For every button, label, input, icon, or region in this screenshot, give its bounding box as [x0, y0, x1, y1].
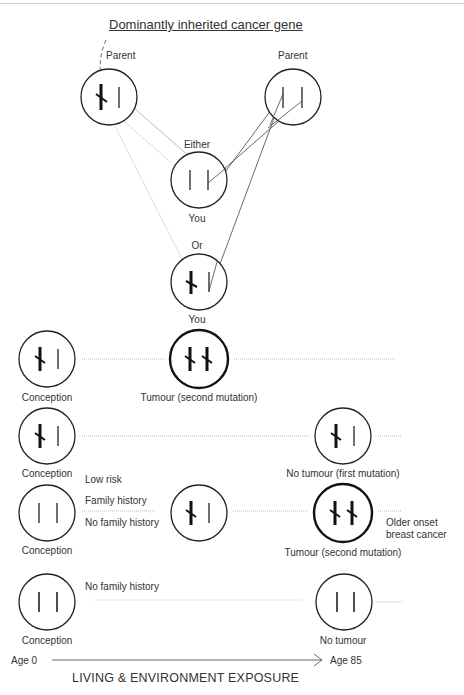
row4-no-tumour-label: No tumour [320, 635, 367, 647]
row2-conception-label: Conception [22, 468, 73, 480]
row1-conception-label: Conception [22, 392, 73, 404]
axis-caption: LIVING & ENVIRONMENT EXPOSURE [72, 671, 299, 685]
pedigree-diagram [0, 0, 464, 695]
row3-no-family-history-label: No family history [85, 517, 159, 529]
row3-tumour-label: Tumour (second mutation) [285, 547, 402, 559]
row3-family-history-label: Family history [85, 495, 147, 507]
age-axis-arrow [52, 654, 322, 666]
child-or-circle [171, 254, 227, 310]
you-label-or: You [189, 314, 206, 326]
or-label: Or [191, 240, 202, 252]
child-either-circle [171, 152, 227, 208]
row3-low-risk-label: Low risk [85, 474, 122, 486]
row3-outcome-line1: Older onset [386, 517, 438, 529]
row4-no-family-history-label: No family history [85, 581, 159, 593]
row3 [19, 484, 402, 542]
parent-right-label: Parent [278, 50, 307, 62]
row4-conception-label: Conception [22, 635, 73, 647]
you-label-either: You [189, 213, 206, 225]
row2 [19, 408, 402, 464]
row2-no-tumour-label: No tumour (first mutation) [286, 468, 399, 480]
row3-conception-label: Conception [22, 545, 73, 557]
row1-tumour-label: Tumour (second mutation) [141, 392, 258, 404]
row1 [19, 330, 396, 388]
axis-start-label: Age 0 [11, 655, 37, 667]
diagram-title: Dominantly inherited cancer gene [109, 17, 303, 32]
either-label: Either [184, 139, 210, 151]
parent-left-circle [81, 69, 137, 125]
parent-left-label: Parent [106, 50, 135, 62]
row4 [19, 574, 402, 630]
row3-outcome-line2: breast cancer [386, 529, 447, 541]
axis-end-label: Age 85 [330, 655, 362, 667]
